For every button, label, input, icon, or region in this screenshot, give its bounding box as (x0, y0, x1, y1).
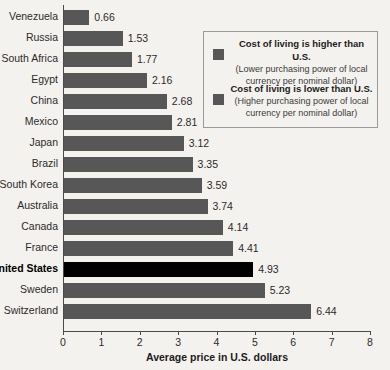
bar-value-label: 2.81 (177, 115, 197, 130)
category-label: Mexico (25, 112, 58, 133)
x-tick-label: 7 (317, 336, 347, 348)
x-tick (293, 331, 294, 335)
bar (64, 52, 132, 67)
bar (64, 304, 311, 319)
bar (64, 136, 184, 151)
x-tick-label: 5 (240, 336, 270, 348)
x-tick (370, 331, 371, 335)
bar-row: Brazil3.35 (63, 154, 370, 175)
bar-row: Canada4.14 (63, 217, 370, 238)
bar (64, 241, 233, 256)
bar-row: Japan3.12 (63, 133, 370, 154)
x-tick-label: 6 (278, 336, 308, 348)
legend-text-higher: Cost of living is higher than U.S. (Lowe… (230, 37, 373, 87)
bar-value-label: 1.77 (137, 52, 157, 67)
x-tick (217, 331, 218, 335)
category-label: Russia (26, 28, 58, 49)
bar (64, 10, 89, 25)
bar (64, 199, 208, 214)
category-label: Japan (29, 133, 58, 154)
bar-row: Sweden5.23 (63, 280, 370, 301)
bar (64, 262, 253, 277)
legend-text-lower: Cost of living is lower than U.S. (Highe… (230, 82, 373, 119)
x-axis-title: Average price in U.S. dollars (63, 351, 371, 363)
x-tick-label: 4 (202, 336, 232, 348)
category-label: South Korea (0, 175, 58, 196)
bar (64, 73, 147, 88)
category-label: Sweden (20, 280, 58, 301)
bar (64, 178, 202, 193)
legend-entry-lower: Cost of living is lower than U.S. (Highe… (204, 82, 377, 126)
bar-value-label: 3.35 (198, 157, 218, 172)
bar (64, 31, 123, 46)
category-label: France (25, 238, 58, 259)
x-tick (140, 331, 141, 335)
category-label: Canada (21, 217, 58, 238)
category-label: China (31, 91, 58, 112)
chart-legend: Cost of living is higher than U.S. (Lowe… (203, 31, 378, 128)
bar (64, 94, 167, 109)
legend-swatch-icon-higher (213, 49, 224, 60)
category-label: Switzerland (4, 301, 58, 322)
bar-value-label: 5.23 (270, 283, 290, 298)
bar-chart: Venezuela0.66Russia1.53South Africa1.77E… (0, 0, 390, 370)
legend-subtitle-higher-line1: (Lower purchasing power of local (230, 63, 373, 75)
bar (64, 115, 172, 130)
bar-value-label: 3.74 (213, 199, 233, 214)
bar-row: United States4.93 (63, 259, 370, 280)
bar-row: Venezuela0.66 (63, 7, 370, 28)
bar-value-label: 3.12 (189, 136, 209, 151)
legend-subtitle-lower-line2: currency per nominal dollar) (230, 107, 373, 119)
bar (64, 220, 223, 235)
x-tick-label: 8 (355, 336, 385, 348)
x-tick (178, 331, 179, 335)
legend-title-higher: Cost of living is higher than U.S. (230, 37, 373, 63)
bar (64, 283, 265, 298)
bar-row: France4.41 (63, 238, 370, 259)
x-tick (63, 331, 64, 335)
bar-row: Switzerland6.44 (63, 301, 370, 322)
category-label: United States (0, 259, 58, 280)
bar-row: South Korea3.59 (63, 175, 370, 196)
x-tick (255, 331, 256, 335)
bar-value-label: 0.66 (94, 10, 114, 25)
x-tick (332, 331, 333, 335)
bar (64, 157, 193, 172)
bar-value-label: 4.93 (258, 262, 278, 277)
category-label: Venezuela (9, 7, 58, 28)
x-tick (101, 331, 102, 335)
bar-value-label: 1.53 (128, 31, 148, 46)
category-label: Egypt (31, 70, 58, 91)
category-label: South Africa (1, 49, 58, 70)
legend-title-lower: Cost of living is lower than U.S. (230, 82, 373, 95)
x-tick-label: 1 (86, 336, 116, 348)
bar-value-label: 3.59 (207, 178, 227, 193)
category-label: Brazil (32, 154, 58, 175)
legend-subtitle-lower-line1: (Higher purchasing power of local (230, 95, 373, 107)
x-tick-label: 0 (48, 336, 78, 348)
bar-value-label: 4.41 (238, 241, 258, 256)
category-label: Australia (17, 196, 58, 217)
legend-swatch-icon-lower (213, 94, 224, 105)
bar-value-label: 2.16 (152, 73, 172, 88)
bar-value-label: 2.68 (172, 94, 192, 109)
bar-value-label: 4.14 (228, 220, 248, 235)
legend-entry-higher: Cost of living is higher than U.S. (Lowe… (204, 37, 377, 81)
x-tick-label: 3 (163, 336, 193, 348)
x-tick-label: 2 (125, 336, 155, 348)
bar-row: Australia3.74 (63, 196, 370, 217)
bar-value-label: 6.44 (316, 304, 336, 319)
